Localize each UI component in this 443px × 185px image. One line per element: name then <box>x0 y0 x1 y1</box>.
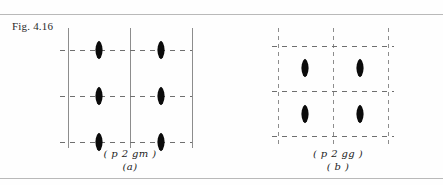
two-fold-axis-symbol <box>301 105 310 124</box>
glide-line-horizontal <box>272 136 394 137</box>
two-fold-axis-symbol <box>301 59 310 78</box>
glide-line-horizontal <box>272 46 394 47</box>
glide-line-horizontal <box>60 96 192 97</box>
figure-label: Fig. 4.16 <box>12 20 53 32</box>
two-fold-axis-symbol <box>356 59 365 78</box>
panel-b-symbol-caption: ( p 2 gg ) <box>268 148 408 159</box>
two-fold-axis-symbol <box>95 41 104 60</box>
lattice-grid-a <box>60 28 192 148</box>
top-rule <box>0 14 443 15</box>
mirror-line-vertical <box>130 28 131 148</box>
panel-b-index-caption: ( b ) <box>268 161 408 172</box>
two-fold-axis-symbol <box>157 41 166 60</box>
two-fold-axis-symbol <box>157 87 166 106</box>
mirror-line-vertical <box>192 28 193 148</box>
two-fold-axis-symbol <box>95 87 104 106</box>
diagram-panel-b: ( p 2 gg ) ( b ) <box>268 28 408 178</box>
glide-line-horizontal <box>60 50 192 51</box>
two-fold-axis-symbol <box>356 105 365 124</box>
glide-line-horizontal <box>60 142 192 143</box>
lattice-grid-b <box>268 28 400 148</box>
diagram-panel-a: ( p 2 gm ) (a) <box>60 28 200 178</box>
bottom-rule <box>0 178 443 179</box>
panel-a-index-caption: (a) <box>60 161 200 172</box>
mirror-line-vertical <box>68 28 69 148</box>
figure-page: Fig. 4.16 ( p 2 gm ) (a) <box>0 0 443 185</box>
glide-line-horizontal <box>272 91 394 92</box>
panel-a-symbol-caption: ( p 2 gm ) <box>60 148 200 159</box>
